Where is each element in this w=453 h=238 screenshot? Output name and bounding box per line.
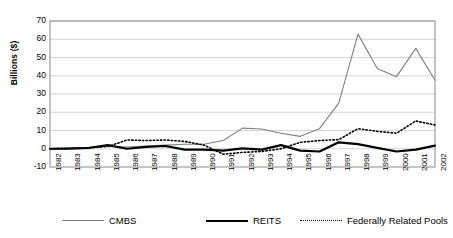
y-tick-label: 0 bbox=[20, 144, 46, 152]
x-tick-label: 1998 bbox=[362, 153, 371, 171]
legend-item-reits[interactable]: REITS bbox=[206, 212, 281, 228]
y-tick-label: 70 bbox=[20, 16, 46, 24]
y-axis-tick-labels: -10010203040506070 bbox=[20, 0, 46, 238]
x-tick-label: 1990 bbox=[208, 153, 217, 171]
y-axis-title: Billions ($) bbox=[9, 23, 19, 103]
y-tick-label: 10 bbox=[20, 126, 46, 134]
x-tick-label: 1995 bbox=[304, 153, 313, 171]
x-tick-label: 1982 bbox=[54, 153, 63, 171]
y-tick-label: 60 bbox=[20, 34, 46, 42]
y-tick-label: -10 bbox=[20, 162, 46, 170]
y-tick-label: 30 bbox=[20, 89, 46, 97]
x-tick-label: 2001 bbox=[420, 153, 429, 171]
legend-swatch-thin-gray-line bbox=[62, 215, 104, 225]
x-tick-label: 2002 bbox=[439, 153, 448, 171]
legend-item-federally-related-pools[interactable]: Federally Related Pools bbox=[300, 212, 448, 228]
x-tick-label: 1997 bbox=[343, 153, 352, 171]
y-tick-label: 50 bbox=[20, 53, 46, 61]
legend-label: CMBS bbox=[109, 215, 136, 226]
plot-area bbox=[0, 0, 453, 238]
x-tick-label: 1994 bbox=[285, 153, 294, 171]
x-tick-label: 2000 bbox=[401, 153, 410, 171]
x-tick-label: 1983 bbox=[73, 153, 82, 171]
legend-label: Federally Related Pools bbox=[347, 215, 448, 226]
x-tick-label: 1989 bbox=[189, 153, 198, 171]
x-tick-label: 1986 bbox=[131, 153, 140, 171]
x-tick-label: 1991 bbox=[227, 153, 236, 171]
legend-label: REITS bbox=[253, 215, 281, 226]
y-tick-label: 20 bbox=[20, 107, 46, 115]
x-tick-label: 1996 bbox=[324, 153, 333, 171]
x-tick-label: 1999 bbox=[381, 153, 390, 171]
legend-item-cmbs[interactable]: CMBS bbox=[62, 212, 136, 228]
x-tick-label: 1988 bbox=[170, 153, 179, 171]
x-tick-label: 1993 bbox=[266, 153, 275, 171]
line-chart: Billions ($) -10010203040506070 19821983… bbox=[0, 0, 453, 238]
legend-swatch-black-dotted-line bbox=[300, 215, 342, 225]
x-tick-label: 1984 bbox=[93, 153, 102, 171]
x-tick-label: 1992 bbox=[247, 153, 256, 171]
y-tick-label: 40 bbox=[20, 71, 46, 79]
legend-swatch-thick-black-line bbox=[206, 215, 248, 225]
x-tick-label: 1987 bbox=[150, 153, 159, 171]
chart-legend: CMBSREITSFederally Related Pools bbox=[0, 212, 453, 234]
x-tick-label: 1985 bbox=[112, 153, 121, 171]
